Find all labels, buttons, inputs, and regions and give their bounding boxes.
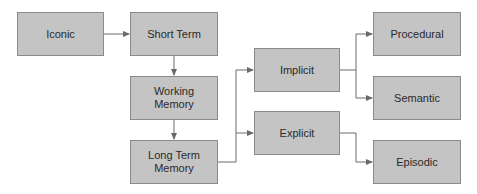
node-label: Iconic bbox=[46, 28, 75, 41]
node-label: Implicit bbox=[280, 64, 314, 77]
node-label: Working Memory bbox=[154, 85, 194, 111]
node-iconic: Iconic bbox=[17, 12, 104, 56]
node-label: Semantic bbox=[394, 92, 440, 105]
node-episodic: Episodic bbox=[373, 140, 461, 184]
node-label: Explicit bbox=[280, 127, 315, 140]
node-label: Procedural bbox=[390, 28, 443, 41]
node-label: Long Term Memory bbox=[148, 149, 200, 175]
node-semantic: Semantic bbox=[373, 76, 461, 120]
node-procedural: Procedural bbox=[373, 12, 461, 56]
node-short-term: Short Term bbox=[130, 12, 218, 56]
node-label: Episodic bbox=[396, 156, 438, 169]
node-label: Short Term bbox=[147, 28, 201, 41]
node-working-memory: Working Memory bbox=[130, 76, 218, 120]
node-explicit: Explicit bbox=[254, 111, 340, 155]
node-implicit: Implicit bbox=[254, 48, 340, 92]
node-long-term-memory: Long Term Memory bbox=[130, 140, 218, 184]
